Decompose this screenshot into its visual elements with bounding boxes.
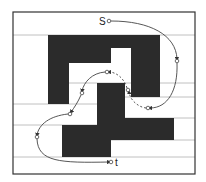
path-planning-diagram: S t <box>0 0 206 182</box>
node-target <box>109 160 113 164</box>
edge-n5-n6 <box>71 95 81 112</box>
node-waypoint <box>126 88 130 92</box>
obstacle-outer-c-left-column <box>48 63 69 104</box>
obstacles <box>48 35 174 157</box>
node-waypoint <box>146 106 150 110</box>
obstacle-outer-c-top <box>48 35 160 48</box>
diagram-canvas: S t <box>0 0 206 182</box>
obstacle-lower-left-block <box>62 125 111 157</box>
node-waypoint <box>175 59 179 63</box>
node-waypoint <box>80 91 84 95</box>
node-waypoint <box>68 112 72 116</box>
node-waypoint <box>105 70 109 74</box>
node-start <box>107 19 111 23</box>
obstacle-inner-center-block <box>97 83 125 118</box>
obstacle-outer-c-right-column <box>131 48 160 97</box>
start-label: S <box>99 16 106 27</box>
target-label: t <box>115 157 118 168</box>
node-waypoint <box>35 135 39 139</box>
obstacle-outer-c-left-top <box>48 48 111 63</box>
